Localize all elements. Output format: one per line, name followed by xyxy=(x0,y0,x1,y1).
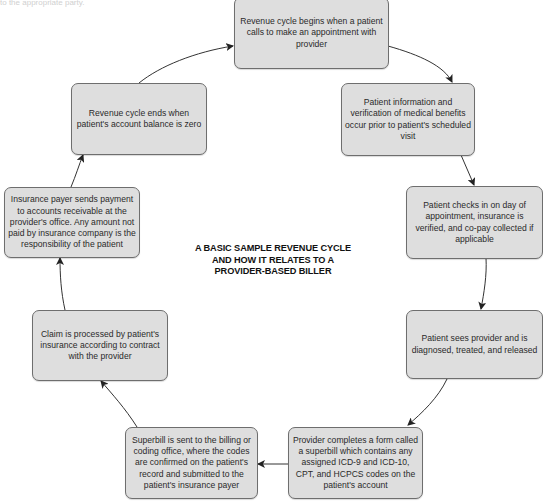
step-text: Revenue cycle ends when patient's accoun… xyxy=(75,108,203,130)
step-text: Patient checks in on day of appointment,… xyxy=(410,200,539,245)
step-box-superbill-completed: Provider completes a form called a super… xyxy=(288,427,423,499)
arrow-step3-to-step4 xyxy=(481,258,486,309)
arrow-step9-to-step1 xyxy=(139,46,233,83)
step-box-sees-provider: Patient sees provider and is diagnosed, … xyxy=(406,310,543,379)
step-text: Insurance payer sends payment to account… xyxy=(8,194,136,250)
step-box-appointment-call: Revenue cycle begins when a patient call… xyxy=(234,0,389,69)
step-box-superbill-sent: Superbill is sent to the billing or codi… xyxy=(125,427,258,499)
title-line-3: PROVIDER-BASED BILLER xyxy=(180,266,366,278)
step-box-cycle-ends: Revenue cycle ends when patient's accoun… xyxy=(71,83,207,155)
arrow-step1-to-step2 xyxy=(388,46,452,82)
arrow-step6-to-step7 xyxy=(101,381,137,427)
step-text: Claim is processed by patient's insuranc… xyxy=(36,329,164,363)
step-box-patient-info-verification: Patient information and verification of … xyxy=(341,83,475,156)
step-box-insurance-payment: Insurance payer sends payment to account… xyxy=(4,187,140,258)
arrow-step2-to-step3 xyxy=(461,155,474,185)
diagram-title: A BASIC SAMPLE REVENUE CYCLE AND HOW IT … xyxy=(180,243,366,278)
step-box-claim-processed: Claim is processed by patient's insuranc… xyxy=(32,310,168,381)
step-text: Patient sees provider and is diagnosed, … xyxy=(410,333,539,355)
arrow-step7-to-step8 xyxy=(60,258,65,310)
title-line-1: A BASIC SAMPLE REVENUE CYCLE xyxy=(180,243,366,255)
step-box-check-in: Patient checks in on day of appointment,… xyxy=(406,186,543,259)
arrow-step8-to-step9 xyxy=(71,155,83,187)
step-text: Superbill is sent to the billing or codi… xyxy=(129,435,254,491)
step-text: Provider completes a form called a super… xyxy=(292,435,419,491)
title-line-2: AND HOW IT RELATES TO A xyxy=(180,255,366,267)
step-text: Revenue cycle begins when a patient call… xyxy=(238,16,385,50)
arrow-step4-to-step5 xyxy=(408,379,447,425)
step-text: Patient information and verification of … xyxy=(345,97,471,142)
